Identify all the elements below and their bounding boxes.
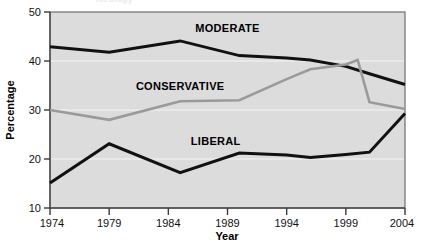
x-tick-label: 1984 [156,217,180,229]
series-label-moderate: MODERATE [195,22,260,34]
x-axis-title: Year [215,230,239,242]
y-tick-label: 30 [29,104,41,116]
y-tick-label: 40 [29,55,41,67]
x-tick-label: 2004 [390,217,414,229]
x-tick-label: 1979 [97,217,121,229]
y-axis-tick-labels: 1020304050 [29,6,41,214]
x-tick-label: 1989 [215,217,239,229]
x-axis-tick-labels: 1974197919841989199419992004 [40,217,414,229]
x-tick-label: 1999 [334,217,358,229]
x-tick-label: 1974 [40,217,64,229]
chart-figure: ideology 1020304050 19741979198419891994… [0,0,425,250]
y-axis-title: Percentage [4,80,16,139]
y-axis-ticks [44,12,50,208]
y-tick-label: 10 [29,202,41,214]
y-tick-label: 20 [29,153,41,165]
x-axis-ticks [50,208,405,215]
y-tick-label: 50 [29,6,41,18]
series-label-liberal: LIBERAL [191,135,241,147]
series-label-conservative: CONSERVATIVE [136,80,225,92]
x-tick-label: 1994 [274,217,298,229]
line-chart-svg: 1020304050 1974197919841989199419992004 … [0,0,425,250]
